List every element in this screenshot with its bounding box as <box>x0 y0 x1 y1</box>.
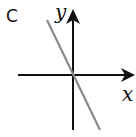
panel-label: C <box>6 8 18 25</box>
x-axis-label: x <box>122 84 133 104</box>
coordinate-plot <box>0 0 136 137</box>
y-axis-label: y <box>55 2 66 22</box>
